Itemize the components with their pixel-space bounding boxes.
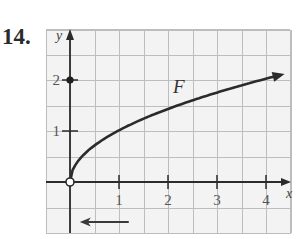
x-axis-label: x bbox=[285, 186, 293, 201]
x-tick-label: 4 bbox=[262, 192, 270, 208]
curve-label-F: F bbox=[172, 76, 185, 97]
y-tick-label: 1 bbox=[53, 123, 61, 139]
x-tick-label: 3 bbox=[213, 192, 221, 208]
x-tick-label: 2 bbox=[164, 192, 172, 208]
y-axis-label: y bbox=[54, 28, 63, 43]
x-tick-label: 1 bbox=[115, 192, 123, 208]
y-tick-label: 2 bbox=[53, 72, 61, 88]
filled-dot-y2 bbox=[66, 76, 73, 83]
chart: 123412 F x y bbox=[0, 0, 304, 239]
open-circle-origin bbox=[66, 178, 74, 186]
